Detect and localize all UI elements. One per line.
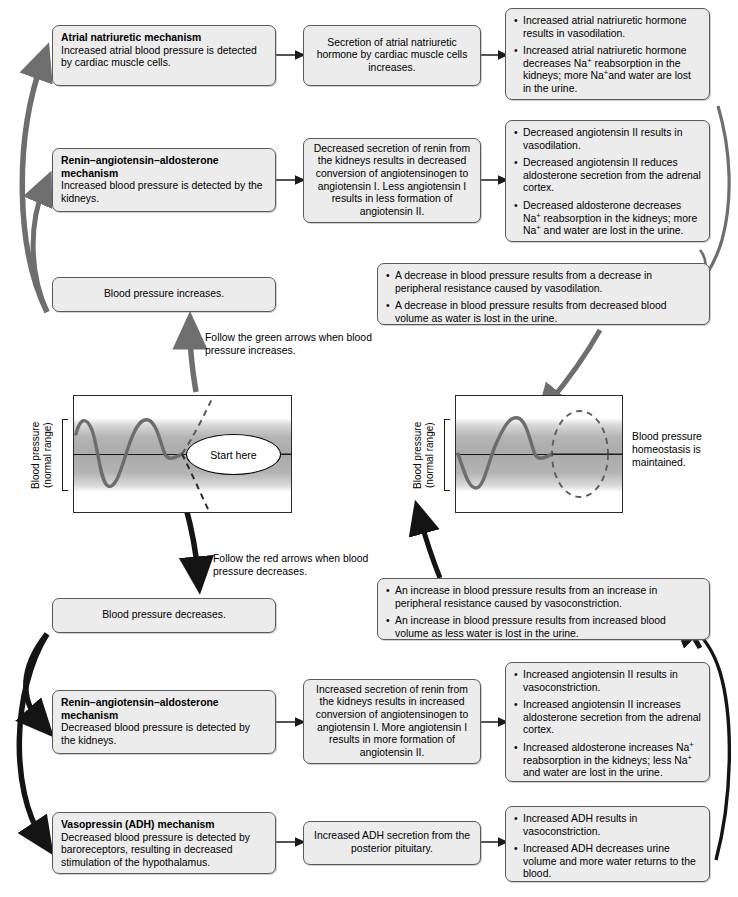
graph-left-ylabel: Blood pressure (normal range) bbox=[30, 400, 53, 510]
box-renin-angiotensin-low-effects[interactable]: Increased angiotensin II results in vaso… bbox=[505, 662, 710, 782]
effect-item: Increased angiotensin II increases aldos… bbox=[514, 699, 701, 737]
legend-decrease-label: Follow the red arrows when blood pressur… bbox=[213, 553, 368, 577]
box-vasopressin-adh-step2[interactable]: Increased ADH secretion from the posteri… bbox=[303, 821, 481, 865]
box-body: Blood pressure decreases. bbox=[102, 609, 226, 622]
graph-to-bp-decrease-arrow bbox=[186, 508, 198, 574]
box-renin-angiotensin-high-effects[interactable]: Decreased angiotensin II results in vaso… bbox=[505, 120, 710, 242]
box-renin-angiotensin-low-mechanism[interactable]: Renin–angiotensin–aldosterone mechanism … bbox=[52, 690, 276, 754]
graph-right-caption: Blood pressure homeostasis is maintained… bbox=[632, 430, 732, 469]
outcome-list: A decrease in blood pressure results fro… bbox=[386, 270, 701, 325]
box-vasopressin-adh-effects[interactable]: Increased ADH results in vasoconstrictio… bbox=[505, 806, 710, 882]
normal-range-bracket-right bbox=[444, 419, 450, 491]
box-title: Vasopressin (ADH) mechanism bbox=[61, 819, 267, 832]
outcome-item: An increase in blood pressure results fr… bbox=[386, 615, 701, 640]
effect-item: Increased aldosterone increases Na+ reab… bbox=[514, 742, 701, 780]
box-body: Decreased blood pressure is detected by … bbox=[61, 832, 250, 868]
effect-item: Decreased angiotensin II reduces aldoste… bbox=[514, 157, 701, 195]
box-blood-pressure-increases[interactable]: Blood pressure increases. bbox=[52, 277, 276, 312]
box-blood-pressure-decreases[interactable]: Blood pressure decreases. bbox=[52, 598, 276, 633]
box-vasopressin-adh-mechanism[interactable]: Vasopressin (ADH) mechanism Decreased bl… bbox=[52, 812, 276, 874]
ylabel-line-1: Blood pressure bbox=[412, 421, 423, 488]
ylabel-line-1: Blood pressure bbox=[30, 421, 41, 488]
bp-increase-to-mechanism-2 bbox=[33, 188, 47, 312]
effect-item: Increased ADH decreases urine volume and… bbox=[514, 843, 701, 881]
outcome-item: A decrease in blood pressure results fro… bbox=[386, 270, 701, 295]
box-body: Increased secretion of renin from the ki… bbox=[312, 684, 472, 760]
legend-increase-label: Follow the green arrows when blood press… bbox=[205, 332, 372, 356]
box-atrial-natriuretic-mechanism[interactable]: Atrial natriuretic mechanism Increased a… bbox=[52, 25, 276, 86]
effects-list: Increased atrial natriuretic hormone res… bbox=[514, 15, 701, 96]
bp-increase-to-mechanism-1 bbox=[22, 62, 47, 312]
bp-wave-right bbox=[456, 396, 623, 513]
ylabel-line-2: (normal range) bbox=[424, 422, 435, 488]
effect-item: Increased atrial natriuretic hormone res… bbox=[514, 15, 701, 40]
effects-list: Increased angiotensin II results in vaso… bbox=[514, 669, 701, 780]
box-top-outcome[interactable]: A decrease in blood pressure results fro… bbox=[377, 263, 710, 325]
outcome-list: An increase in blood pressure results fr… bbox=[386, 585, 701, 640]
graph-left-blood-pressure: Start here bbox=[73, 395, 292, 513]
box-body: Decreased secretion of renin from the ki… bbox=[312, 143, 472, 219]
outcome-to-graph-arrow-gray bbox=[548, 330, 600, 404]
start-here-label: Start here bbox=[210, 449, 257, 461]
box-bottom-outcome[interactable]: An increase in blood pressure results fr… bbox=[377, 578, 710, 640]
box-body: Decreased blood pressure is detected by … bbox=[61, 722, 250, 746]
graph-right-ylabel: Blood pressure (normal range) bbox=[412, 400, 435, 510]
box-body: Secretion of atrial natriuretic hormone … bbox=[312, 37, 472, 75]
outcome-to-graph-arrow-black bbox=[420, 518, 440, 578]
effect-item: Increased ADH results in vasoconstrictio… bbox=[514, 813, 701, 838]
legend-increase-text: Follow the green arrows when blood press… bbox=[205, 331, 385, 357]
box-body: Increased ADH secretion from the posteri… bbox=[312, 830, 472, 855]
bp-decrease-to-mechanism-1 bbox=[26, 634, 47, 722]
homeostasis-caption-label: Blood pressure homeostasis is maintained… bbox=[632, 431, 702, 468]
effects-list: Decreased angiotensin II results in vaso… bbox=[514, 127, 701, 238]
effect-item: Increased angiotensin II results in vaso… bbox=[514, 669, 701, 694]
effect-item: Decreased angiotensin II results in vaso… bbox=[514, 127, 701, 152]
box-body: Increased blood pressure is detected by … bbox=[61, 180, 263, 204]
normal-range-bracket-left bbox=[62, 419, 68, 491]
legend-decrease-text: Follow the red arrows when blood pressur… bbox=[213, 552, 393, 578]
box-atrial-natriuretic-effects[interactable]: Increased atrial natriuretic hormone res… bbox=[505, 8, 710, 100]
effect-item: Decreased aldosterone decreases Na+ reab… bbox=[514, 200, 701, 238]
box-renin-angiotensin-low-step2[interactable]: Increased secretion of renin from the ki… bbox=[303, 679, 481, 764]
box-title: Renin–angiotensin–aldosterone mechanism bbox=[61, 697, 267, 722]
outcome-item: A decrease in blood pressure results fro… bbox=[386, 300, 701, 325]
effects-list: Increased ADH results in vasoconstrictio… bbox=[514, 813, 701, 881]
box-renin-angiotensin-high-step2[interactable]: Decreased secretion of renin from the ki… bbox=[303, 138, 481, 223]
bp-decrease-to-mechanism-2 bbox=[19, 634, 47, 838]
box-body: Increased atrial blood pressure is detec… bbox=[61, 45, 257, 69]
box-title: Atrial natriuretic mechanism bbox=[61, 32, 267, 45]
outcome-item: An increase in blood pressure results fr… bbox=[386, 585, 701, 610]
box-body: Blood pressure increases. bbox=[104, 288, 224, 301]
box-atrial-natriuretic-step2[interactable]: Secretion of atrial natriuretic hormone … bbox=[303, 25, 481, 86]
effect-item: Increased atrial natriuretic hormone dec… bbox=[514, 45, 701, 95]
graph-to-bp-increase-arrow bbox=[190, 332, 196, 392]
diagram-canvas: Atrial natriuretic mechanism Increased a… bbox=[0, 0, 738, 897]
start-here-oval[interactable]: Start here bbox=[186, 434, 281, 475]
ylabel-line-2: (normal range) bbox=[42, 422, 53, 488]
box-title: Renin–angiotensin–aldosterone mechanism bbox=[61, 155, 267, 180]
box-renin-angiotensin-high-mechanism[interactable]: Renin–angiotensin–aldosterone mechanism … bbox=[52, 148, 276, 212]
graph-right-blood-pressure bbox=[455, 395, 623, 513]
